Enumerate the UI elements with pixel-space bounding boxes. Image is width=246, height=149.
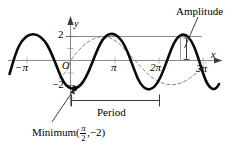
trig-graph-figure: x y O 2 −2 −π π 2π 3π Amplitude Period M… [0,0,246,149]
x-tick-label-2pi: 2π [150,62,161,73]
period-annotation-label: Period [97,107,126,118]
minimum-x-denominator: 2 [80,133,86,143]
y-axis-label: y [74,19,78,29]
x-tick-label-pi: π [111,62,117,73]
y-tick-label-minus-2: −2 [52,79,64,90]
x-tick-label-3pi: 3π [196,63,207,74]
y-axis-arrowhead [67,16,73,25]
minimum-annotation-suffix: ,−2) [87,126,105,138]
x-tick-label-minus-pi: −π [15,62,28,73]
y-tick-label-2: 2 [58,29,64,40]
minimum-annotation-prefix: Minimum( [32,126,80,138]
origin-label: O [62,61,69,71]
amplitude-annotation-label: Amplitude [176,6,223,17]
minimum-x-numerator: π [80,124,86,133]
x-axis-label: x [211,50,215,60]
minimum-annotation: Minimum(π2,−2) [32,124,105,142]
minimum-x-fraction: π2 [80,124,86,142]
